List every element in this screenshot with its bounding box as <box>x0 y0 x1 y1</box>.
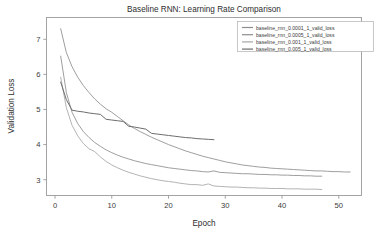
y-tick-label: 4 <box>36 140 40 149</box>
x-tick-label: 20 <box>164 201 172 210</box>
legend-label-0: baseline_rnn_0.0001_1_valid_loss <box>256 25 335 31</box>
y-axis-ticks: 34567 <box>36 35 46 184</box>
series-group <box>61 29 350 190</box>
y-axis-label: Validation Loss <box>7 79 16 134</box>
y-tick-label: 7 <box>36 35 40 44</box>
chart-title: Baseline RNN: Learning Rate Comparison <box>127 5 281 14</box>
line-chart: Baseline RNN: Learning Rate Comparison 0… <box>0 0 379 234</box>
series-line-1 <box>61 56 322 176</box>
y-tick-label: 3 <box>36 176 40 185</box>
x-tick-label: 40 <box>278 201 286 210</box>
legend-label-3: baseline_rnn_0.005_1_valid_loss <box>256 46 332 52</box>
x-tick-label: 0 <box>53 201 57 210</box>
x-tick-label: 10 <box>108 201 116 210</box>
series-line-2 <box>61 77 322 189</box>
y-tick-label: 6 <box>36 70 40 79</box>
series-line-3 <box>61 82 214 140</box>
chart-legend[interactable]: baseline_rnn_0.0001_1_valid_lossbaseline… <box>238 22 374 53</box>
x-axis-label: Epoch <box>192 219 216 228</box>
legend-label-2: baseline_rnn_0.001_1_valid_loss <box>256 39 332 45</box>
x-tick-label: 30 <box>221 201 229 210</box>
chart-figure: Baseline RNN: Learning Rate Comparison 0… <box>0 0 379 234</box>
y-tick-label: 5 <box>36 105 40 114</box>
x-axis-ticks: 01020304050 <box>53 196 343 210</box>
x-tick-label: 50 <box>335 201 343 210</box>
legend-label-1: baseline_rnn_0.0005_1_valid_loss <box>256 32 335 38</box>
